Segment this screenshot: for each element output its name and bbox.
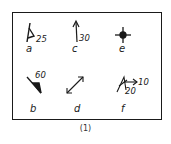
symbol-c-label: c [72, 43, 78, 54]
symbol-b-label: b [30, 103, 36, 114]
figure-caption: (1) [0, 124, 171, 133]
symbol-c-value: 30 [79, 33, 90, 43]
symbol-b-value: 60 [35, 70, 46, 80]
symbol-e-label: e [119, 43, 125, 54]
symbol-a-icon [27, 23, 34, 42]
symbol-a-label: a [26, 43, 32, 54]
symbol-d-label: d [74, 103, 80, 114]
symbol-f-label: f [121, 103, 125, 114]
symbol-d-icon [67, 77, 83, 93]
symbols-drawing [0, 0, 171, 144]
symbol-f-value: 10 [138, 77, 149, 87]
symbol-e-icon [115, 27, 131, 43]
symbol-f-value2: 20 [125, 86, 136, 96]
symbol-a-value: 25 [36, 34, 47, 44]
